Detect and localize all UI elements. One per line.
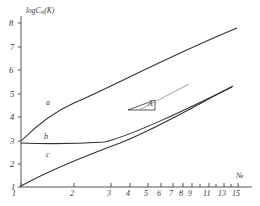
x-tick-label-5: 5: [144, 190, 148, 198]
y-axis-title: logCst(K): [26, 7, 54, 16]
annotation-guide-line: [139, 84, 189, 110]
x-tick-label-3: 3: [107, 190, 111, 198]
plot-canvas: [0, 0, 260, 206]
x-tick-label-8: 8: [179, 190, 183, 198]
x-axis-title: №: [236, 172, 244, 180]
curve-label-a: a: [46, 99, 50, 107]
plot-figure: [0, 0, 260, 206]
y-tick-label-7: 7: [10, 43, 14, 52]
y-tick-label-6: 6: [9, 66, 13, 75]
y-tick-label-3: 3: [10, 137, 14, 146]
annotation-label-A: A: [148, 100, 153, 108]
y-tick-label-4: 4: [10, 113, 14, 122]
y-axis-title-main: logC: [26, 6, 41, 15]
x-tick-label-13: 13: [218, 190, 226, 198]
curve-label-b: b: [44, 133, 48, 141]
x-tick-label-9: 9: [188, 190, 192, 198]
x-axis-ticks: [21, 183, 238, 187]
x-tick-label-4: 4: [126, 190, 130, 198]
y-tick-label-2: 2: [10, 160, 14, 169]
curve-c: [21, 86, 233, 186]
curve-label-c: c: [46, 151, 50, 159]
y-tick-label-5: 5: [10, 90, 14, 99]
curve-a: [21, 28, 237, 141]
x-tick-label-15: 15: [232, 190, 240, 198]
x-tick-label-1: 1: [12, 190, 16, 198]
y-tick-label-8: 8: [9, 19, 13, 28]
x-tick-label-7: 7: [169, 190, 173, 198]
x-tick-label-6: 6: [157, 190, 161, 198]
y-axis-title-tail: (K): [44, 6, 54, 15]
x-tick-label-11: 11: [203, 190, 210, 198]
x-tick-label-2: 2: [70, 190, 74, 198]
